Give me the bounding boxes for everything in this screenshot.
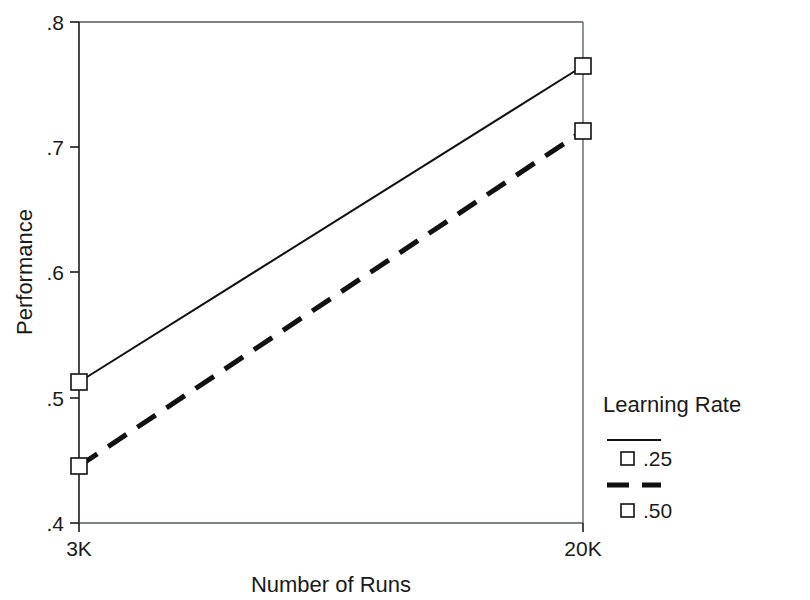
legend-entry-025: .25: [607, 440, 672, 470]
plot-frame: [79, 22, 583, 523]
legend-entry-050: .50: [607, 485, 672, 522]
x-tick-label-3k: 3K: [66, 537, 92, 560]
y-tick-label-4: .4: [46, 512, 64, 535]
x-axis-tick-labels: 3K 20K: [66, 537, 602, 560]
series-025-marker-20k: [575, 58, 591, 74]
chart-figure: .8 .7 .6 .5 .4 3K 20K Number of Runs Per…: [0, 0, 810, 600]
series-025-line: [79, 66, 583, 382]
series-050: [71, 123, 591, 474]
series-025: [71, 58, 591, 390]
legend-marker-025: [621, 452, 634, 465]
legend-title: Learning Rate: [603, 392, 741, 417]
y-tick-label-8: .8: [46, 11, 64, 34]
y-tick-label-6: .6: [46, 261, 64, 284]
y-tick-label-5: .5: [46, 387, 64, 410]
series-025-marker-3k: [71, 374, 87, 390]
line-chart: .8 .7 .6 .5 .4 3K 20K Number of Runs Per…: [0, 0, 810, 600]
legend-label-025: .25: [643, 447, 672, 470]
y-axis-tick-labels: .8 .7 .6 .5 .4: [46, 11, 64, 535]
x-tick-label-20k: 20K: [564, 537, 601, 560]
legend-label-050: .50: [643, 499, 672, 522]
legend: Learning Rate .25 .50: [603, 392, 741, 522]
x-axis-title: Number of Runs: [251, 572, 411, 597]
series-050-marker-20k: [575, 123, 591, 139]
series-050-marker-3k: [71, 458, 87, 474]
y-tick-label-7: .7: [46, 136, 64, 159]
x-axis-ticks: [79, 523, 583, 532]
legend-marker-050: [621, 504, 634, 517]
series-050-line: [79, 131, 583, 466]
y-axis-title: Performance: [12, 209, 37, 335]
y-axis-ticks: [70, 22, 79, 523]
